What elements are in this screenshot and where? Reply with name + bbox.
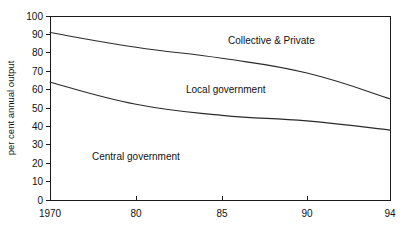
y-tick-label: 60: [32, 84, 44, 95]
x-tick-label: 80: [130, 208, 142, 219]
x-tick-label: 90: [301, 208, 313, 219]
x-tick-label: 94: [384, 208, 396, 219]
x-tick-label: 1970: [39, 208, 62, 219]
y-tick-label: 30: [32, 139, 44, 150]
y-tick-label: 50: [32, 103, 44, 114]
y-tick-label: 20: [32, 158, 44, 169]
y-tick-label: 10: [32, 176, 44, 187]
y-tick-label: 100: [26, 11, 43, 22]
band-label-collective-and-private: Collective & Private: [228, 35, 315, 46]
chart-figure: 0102030405060708090100 197080859094 Coll…: [0, 0, 410, 233]
y-tick-label: 80: [32, 47, 44, 58]
x-tick-label: 85: [216, 208, 228, 219]
band-label-central-government: Central government: [92, 151, 180, 162]
y-tick-label: 40: [32, 121, 44, 132]
y-tick-label: 70: [32, 66, 44, 77]
chart-container: 0102030405060708090100 197080859094 Coll…: [0, 0, 410, 233]
y-tick-label: 90: [32, 29, 44, 40]
y-axis-title: per cent annual output: [5, 60, 16, 155]
band-label-local-government: Local government: [186, 84, 266, 95]
y-tick-label: 0: [37, 195, 43, 206]
